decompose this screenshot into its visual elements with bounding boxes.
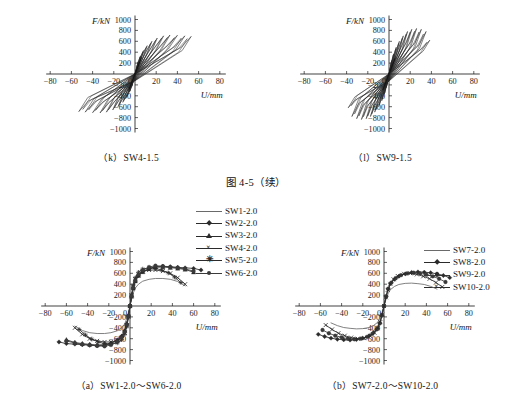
svg-text:F/kN: F/kN bbox=[91, 16, 111, 26]
svg-text:−1000: −1000 bbox=[359, 357, 380, 366]
svg-text:80: 80 bbox=[211, 309, 219, 318]
svg-text:−60: −60 bbox=[60, 309, 73, 318]
svg-text:−80: −80 bbox=[39, 309, 52, 318]
legend-swatch-icon bbox=[196, 206, 222, 216]
subcaption-panel-a: （a）SW1-2.0～SW6-2.0 bbox=[2, 378, 255, 392]
svg-text:U/mm: U/mm bbox=[201, 90, 223, 100]
svg-text:40: 40 bbox=[427, 77, 435, 86]
svg-text:−60: −60 bbox=[65, 77, 78, 86]
svg-text:40: 40 bbox=[173, 77, 181, 86]
svg-text:−200: −200 bbox=[363, 313, 380, 322]
svg-text:200: 200 bbox=[368, 291, 380, 300]
figure-root: −80−60−40−20204060800−1000−800−600−400−2… bbox=[0, 0, 511, 409]
svg-text:20: 20 bbox=[152, 77, 160, 86]
svg-text:800: 800 bbox=[114, 258, 126, 267]
svg-text:−1000: −1000 bbox=[364, 125, 385, 134]
subcaption-panel-k: （k）SW4-1.5 bbox=[2, 150, 255, 164]
legend-item-sw1-2.0: SW1-2.0 bbox=[196, 205, 257, 217]
svg-text:−800: −800 bbox=[363, 346, 380, 355]
svg-text:−1000: −1000 bbox=[105, 357, 126, 366]
svg-text:U/mm: U/mm bbox=[455, 90, 477, 100]
svg-text:−40: −40 bbox=[340, 77, 353, 86]
svg-text:−800: −800 bbox=[114, 114, 131, 123]
svg-text:F/kN: F/kN bbox=[345, 16, 365, 26]
svg-text:−200: −200 bbox=[109, 313, 126, 322]
svg-text:40: 40 bbox=[168, 309, 176, 318]
hysteresis-plot-sw9-15: −80−60−40−20204060800−1000−800−600−400−2… bbox=[256, 2, 509, 150]
svg-text:400: 400 bbox=[368, 280, 380, 289]
legend-label: SW1-2.0 bbox=[225, 207, 257, 216]
svg-text:600: 600 bbox=[114, 269, 126, 278]
legend-item-sw2-2.0: SW2-2.0 bbox=[196, 217, 257, 229]
svg-text:−80: −80 bbox=[44, 77, 57, 86]
hysteresis-plot-sw4-15: −80−60−40−20204060800−1000−800−600−400−2… bbox=[2, 2, 255, 150]
skeleton-plot-sw7-sw10: −80−60−40−20204060800−1000−800−600−400−2… bbox=[256, 236, 509, 378]
svg-text:400: 400 bbox=[114, 280, 126, 289]
plot-panel-a: −80−60−40−20204060800−1000−800−600−400−2… bbox=[2, 236, 255, 378]
svg-text:600: 600 bbox=[373, 37, 385, 46]
svg-text:20: 20 bbox=[406, 77, 414, 86]
svg-text:200: 200 bbox=[114, 291, 126, 300]
svg-text:600: 600 bbox=[368, 269, 380, 278]
svg-text:800: 800 bbox=[368, 258, 380, 267]
svg-text:60: 60 bbox=[444, 309, 452, 318]
svg-text:F/kN: F/kN bbox=[340, 248, 360, 258]
svg-text:40: 40 bbox=[422, 309, 430, 318]
plot-panel-l: −80−60−40−20204060800−1000−800−600−400−2… bbox=[256, 2, 509, 150]
svg-text:1000: 1000 bbox=[110, 248, 126, 257]
svg-text:60: 60 bbox=[195, 77, 203, 86]
svg-text:800: 800 bbox=[119, 26, 131, 35]
svg-text:−40: −40 bbox=[86, 77, 99, 86]
subcaption-panel-b: （b）SW7-2.0～SW10-2.0 bbox=[256, 378, 509, 392]
figure-caption: 图 4-5（续） bbox=[0, 174, 511, 189]
svg-text:20: 20 bbox=[401, 309, 409, 318]
legend-label: SW2-2.0 bbox=[225, 219, 257, 228]
svg-text:80: 80 bbox=[216, 77, 224, 86]
svg-text:−800: −800 bbox=[109, 346, 126, 355]
plot-panel-k: −80−60−40−20204060800−1000−800−600−400−2… bbox=[2, 2, 255, 150]
svg-text:−80: −80 bbox=[298, 77, 311, 86]
svg-text:400: 400 bbox=[373, 48, 385, 57]
svg-text:1000: 1000 bbox=[115, 16, 131, 25]
svg-text:−80: −80 bbox=[293, 309, 306, 318]
svg-text:80: 80 bbox=[470, 77, 478, 86]
svg-text:−1000: −1000 bbox=[110, 125, 131, 134]
svg-text:80: 80 bbox=[465, 309, 473, 318]
legend-swatch-icon bbox=[196, 219, 222, 229]
svg-text:1000: 1000 bbox=[364, 248, 380, 257]
svg-text:800: 800 bbox=[373, 26, 385, 35]
svg-text:200: 200 bbox=[119, 59, 131, 68]
skeleton-plot-sw1-sw6: −80−60−40−20204060800−1000−800−600−400−2… bbox=[2, 236, 255, 378]
subcaption-panel-l: （l）SW9-1.5 bbox=[256, 150, 509, 164]
plot-panel-b: −80−60−40−20204060800−1000−800−600−400−2… bbox=[256, 236, 509, 378]
svg-text:−60: −60 bbox=[314, 309, 327, 318]
svg-text:60: 60 bbox=[449, 77, 457, 86]
svg-text:20: 20 bbox=[147, 309, 155, 318]
svg-text:−40: −40 bbox=[335, 309, 348, 318]
svg-text:U/mm: U/mm bbox=[196, 322, 218, 332]
svg-text:F/kN: F/kN bbox=[86, 248, 106, 258]
svg-text:400: 400 bbox=[119, 48, 131, 57]
svg-text:−40: −40 bbox=[81, 309, 94, 318]
svg-text:−60: −60 bbox=[319, 77, 332, 86]
svg-text:60: 60 bbox=[190, 309, 198, 318]
svg-text:U/mm: U/mm bbox=[450, 322, 472, 332]
svg-text:600: 600 bbox=[119, 37, 131, 46]
svg-text:1000: 1000 bbox=[369, 16, 385, 25]
svg-text:200: 200 bbox=[373, 59, 385, 68]
